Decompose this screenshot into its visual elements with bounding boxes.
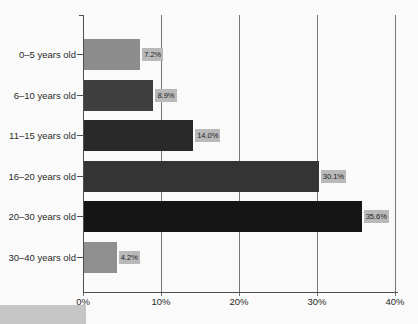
x-axis-tick-label: 10%	[141, 296, 181, 307]
category-label: 30–40 years old	[8, 242, 76, 273]
category-label: 16–20 years old	[8, 161, 76, 192]
bar	[84, 120, 193, 151]
value-label: 30.1%	[321, 170, 346, 183]
value-label: 7.2%	[142, 48, 163, 61]
value-label: 8.9%	[155, 89, 176, 102]
x-axis-line	[83, 292, 398, 293]
bar	[84, 161, 319, 192]
bar	[84, 201, 362, 232]
y-axis-line	[83, 15, 84, 292]
x-axis-tick-label: 30%	[297, 296, 337, 307]
category-label: 20–30 years old	[8, 201, 76, 232]
bar-chart: 0%10%20%30%40%0–5 years old7.2%6–10 year…	[0, 0, 418, 324]
bar	[84, 39, 140, 70]
value-label: 4.2%	[119, 251, 140, 264]
gridline	[317, 15, 318, 296]
corner-artifact	[0, 305, 86, 324]
category-label: 11–15 years old	[9, 120, 76, 151]
gridline	[239, 15, 240, 296]
bar	[84, 80, 153, 111]
category-label: 0–5 years old	[19, 39, 76, 70]
value-label: 14.0%	[195, 129, 220, 142]
category-label: 6–10 years old	[14, 80, 76, 111]
bar	[84, 242, 117, 273]
y-axis-top-tick	[79, 15, 84, 16]
value-label: 35.6%	[364, 210, 389, 223]
plot-area: 0%10%20%30%40%0–5 years old7.2%6–10 year…	[0, 0, 418, 324]
x-axis-tick-label: 20%	[219, 296, 259, 307]
x-axis-tick-label: 40%	[375, 296, 415, 307]
gridline	[395, 15, 396, 296]
